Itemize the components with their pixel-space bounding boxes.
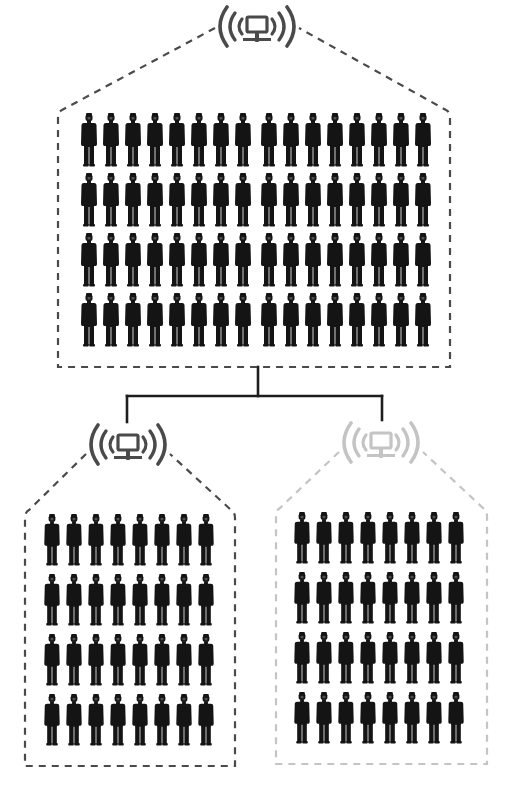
person-icon — [349, 113, 365, 167]
person-icon — [154, 694, 169, 746]
person-icon — [349, 293, 365, 347]
person-icon — [176, 574, 191, 626]
person-icon — [283, 293, 299, 347]
person-icon — [316, 692, 331, 744]
person-icon — [426, 692, 441, 744]
person-icon — [371, 173, 387, 227]
person-icon — [415, 293, 431, 347]
person-icon — [125, 173, 141, 227]
person-icon — [132, 694, 147, 746]
person-icon — [316, 632, 331, 684]
wireless-network-computer-icon: Sub-network A — [91, 425, 165, 464]
person-icon — [294, 692, 309, 744]
person-icon — [213, 173, 229, 227]
person-icon — [169, 173, 185, 227]
person-icon — [198, 694, 213, 746]
person-icon — [382, 632, 397, 684]
person-icon — [382, 692, 397, 744]
person-icon — [44, 634, 59, 686]
person-icon — [132, 634, 147, 686]
person-icon — [169, 233, 185, 287]
person-icon — [81, 113, 97, 167]
person-icon — [103, 233, 119, 287]
people-group-left — [44, 514, 213, 746]
person-icon — [125, 113, 141, 167]
person-icon — [382, 572, 397, 624]
person-icon — [103, 173, 119, 227]
person-icon — [327, 293, 343, 347]
person-icon — [176, 694, 191, 746]
person-icon — [426, 632, 441, 684]
person-icon — [66, 634, 81, 686]
person-icon — [283, 233, 299, 287]
person-icon — [191, 293, 207, 347]
person-icon — [371, 293, 387, 347]
person-icon — [338, 632, 353, 684]
person-icon — [154, 634, 169, 686]
person-icon — [261, 233, 277, 287]
person-icon — [448, 632, 463, 684]
person-icon — [393, 113, 409, 167]
person-icon — [305, 293, 321, 347]
person-icon — [261, 173, 277, 227]
person-icon — [448, 572, 463, 624]
person-icon — [81, 293, 97, 347]
person-icon — [154, 514, 169, 566]
person-icon — [176, 634, 191, 686]
person-icon — [283, 173, 299, 227]
person-icon — [327, 233, 343, 287]
person-icon — [404, 512, 419, 564]
network-node-right: Sub-network B — [276, 423, 487, 764]
person-icon — [305, 113, 321, 167]
person-icon — [191, 113, 207, 167]
person-icon — [371, 233, 387, 287]
person-icon — [349, 233, 365, 287]
person-icon — [213, 113, 229, 167]
person-icon — [349, 173, 365, 227]
person-icon — [294, 632, 309, 684]
person-icon — [44, 694, 59, 746]
person-icon — [426, 572, 441, 624]
person-icon — [415, 173, 431, 227]
person-icon — [235, 293, 251, 347]
person-icon — [198, 514, 213, 566]
person-icon — [404, 692, 419, 744]
person-icon — [88, 634, 103, 686]
person-icon — [327, 113, 343, 167]
person-icon — [110, 694, 125, 746]
person-icon — [110, 514, 125, 566]
person-icon — [404, 632, 419, 684]
person-icon — [316, 512, 331, 564]
person-icon — [338, 572, 353, 624]
person-icon — [404, 572, 419, 624]
person-icon — [88, 574, 103, 626]
person-icon — [198, 574, 213, 626]
person-icon — [360, 572, 375, 624]
person-icon — [382, 512, 397, 564]
person-icon — [360, 632, 375, 684]
person-icon — [415, 113, 431, 167]
network-connector-lines — [127, 367, 382, 422]
person-icon — [294, 512, 309, 564]
wireless-network-computer-icon: Sub-network B — [344, 423, 418, 462]
person-icon — [338, 512, 353, 564]
people-group-root — [81, 113, 431, 347]
person-icon — [147, 233, 163, 287]
person-icon — [305, 233, 321, 287]
person-icon — [198, 634, 213, 686]
person-icon — [448, 692, 463, 744]
person-icon — [169, 293, 185, 347]
person-icon — [66, 694, 81, 746]
person-icon — [88, 694, 103, 746]
person-icon — [426, 512, 441, 564]
person-icon — [327, 173, 343, 227]
person-icon — [448, 512, 463, 564]
person-icon — [191, 233, 207, 287]
person-icon — [154, 574, 169, 626]
person-icon — [103, 293, 119, 347]
person-icon — [132, 574, 147, 626]
person-icon — [235, 113, 251, 167]
person-icon — [213, 293, 229, 347]
person-icon — [110, 634, 125, 686]
person-icon — [147, 293, 163, 347]
